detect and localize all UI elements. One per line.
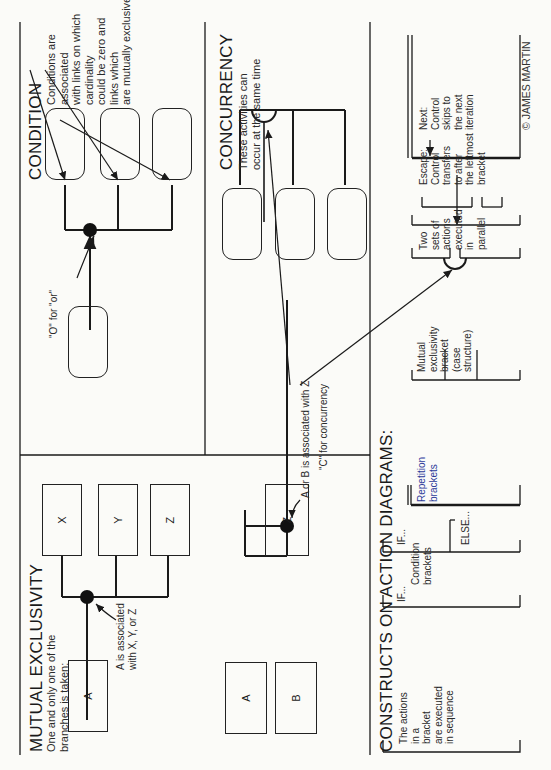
or-label: "O" for "or" [48, 290, 60, 338]
concurrency-description: These activities can occur at the same t… [237, 20, 262, 170]
condition-target-box-2 [100, 108, 140, 180]
box-x: X [42, 484, 82, 556]
condition-target-box-3 [152, 108, 192, 180]
constructs-title: CONSTRUCTS ON ACTION DIAGRAMS: [378, 430, 396, 752]
condition-description: Conditions are associated with links on … [45, 0, 133, 105]
mutual-exclusivity-subtitle: One and only one of the branches is take… [45, 602, 70, 752]
box-a: A [68, 660, 108, 732]
box-b: B [275, 662, 317, 734]
condition-title: CONDITION [27, 83, 45, 180]
concurrency-box-3 [327, 188, 367, 260]
box-z: Z [150, 484, 190, 556]
copyright-credit: © JAMES MARTIN [520, 41, 532, 130]
condition-target-box-1 [45, 108, 85, 180]
sequence-bracket-label: The actions in a bracket are executed in… [398, 654, 456, 744]
mutual-exclusivity-annotation-1: A is associated with X, Y, or Z [115, 560, 138, 670]
c-for-concurrency-label: "C" for concurrency [318, 384, 330, 470]
if-label-1: IF... [396, 586, 408, 602]
diagram-canvas: MUTUAL EXCLUSIVITY One and only one of t… [0, 0, 551, 770]
mutual-exclusivity-annotation-2: A or B is associated with Z [300, 381, 312, 498]
mutual-exclusivity-bracket-label: Mutual exclusivity bracket (case structu… [416, 292, 474, 372]
repetition-brackets-label: Repetition brackets [416, 422, 439, 502]
parallel-label: Two sets of actions executed in parallel [418, 180, 487, 250]
concurrency-title: CONCURRENCY [218, 34, 236, 170]
condition-brackets-label: Condition brackets [410, 515, 433, 585]
concurrency-box-1 [222, 188, 262, 260]
if-label-2: IF... [396, 529, 408, 545]
next-label: Next: Control skips to the next iteratio… [418, 60, 476, 130]
else-label: ELSE... [460, 511, 472, 545]
box-a-2: A [225, 662, 267, 734]
mutual-exclusivity-title: MUTUAL EXCLUSIVITY [28, 564, 46, 752]
concurrency-box-2 [275, 188, 315, 260]
box-y: Y [98, 484, 138, 556]
condition-source-box [68, 306, 108, 378]
